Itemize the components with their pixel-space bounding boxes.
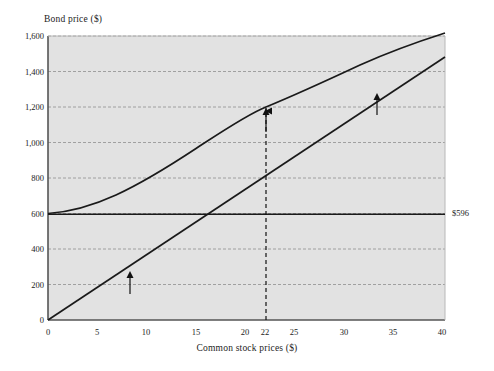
plot-area (0, 0, 494, 371)
chart-figure: Bond price ($) Common stock prices ($) 1… (0, 0, 494, 371)
